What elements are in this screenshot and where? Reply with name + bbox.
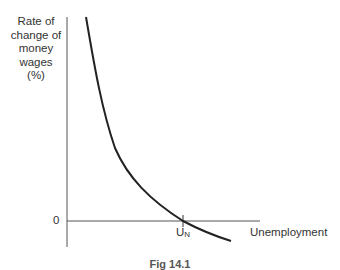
x-axis-label: Unemployment [250, 226, 327, 238]
phillips-curve [86, 17, 231, 241]
un-subscript: N [184, 230, 190, 239]
figure-caption: Fig 14.1 [0, 258, 340, 270]
un-marker-label: UN [176, 226, 190, 239]
y-zero-tick-label: 0 [53, 214, 59, 226]
